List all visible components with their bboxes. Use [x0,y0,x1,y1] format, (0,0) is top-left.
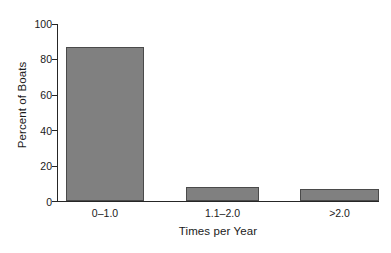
bar-0 [66,47,144,201]
y-axis-spine [57,24,58,202]
y-tick-label-40: 40 [26,126,52,136]
x-tick-label-2: >2.0 [300,207,379,219]
bar-2 [300,189,379,201]
x-tick-label-1: 1.1–2.0 [186,207,259,219]
bar-1 [186,187,259,201]
y-tick-mark-40 [52,130,58,131]
bar-chart: Percent of Boats 100 80 60 40 20 0 0–1.0… [0,0,391,253]
y-tick-mark-60 [52,95,58,96]
y-tick-label-80: 80 [26,54,52,64]
x-tick-label-0: 0–1.0 [66,207,144,219]
y-tick-label-20: 20 [26,161,52,171]
y-tick-mark-100 [52,24,58,25]
x-axis-title: Times per Year [57,224,379,238]
x-axis-spine [57,201,379,202]
y-tick-mark-20 [52,166,58,167]
y-tick-mark-80 [52,59,58,60]
y-tick-label-100: 100 [26,19,52,29]
y-tick-mark-0 [52,201,58,202]
y-tick-label-60: 60 [26,90,52,100]
y-tick-label-0: 0 [26,197,52,207]
y-axis-tick-labels: 100 80 60 40 20 0 [24,0,52,253]
